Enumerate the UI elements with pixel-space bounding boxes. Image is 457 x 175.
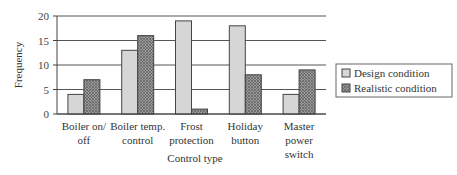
y-tick-label: 5: [44, 84, 50, 96]
legend: Design conditionRealistic condition: [336, 64, 452, 97]
bar-realistic-condition: [192, 109, 208, 114]
bar-realistic-condition: [138, 36, 154, 114]
legend-label: Realistic condition: [354, 82, 437, 94]
y-tick-label: 20: [38, 10, 50, 22]
x-category-label: Boiler on/: [62, 120, 107, 132]
bar-design-condition: [68, 94, 84, 114]
y-axis-ticks: 05101520: [38, 10, 57, 120]
legend-label: Design condition: [354, 67, 430, 79]
x-category-label: Frost: [180, 120, 203, 132]
y-tick-label: 15: [38, 35, 50, 47]
x-category-label: protection: [169, 134, 214, 146]
x-category-label: off: [78, 134, 91, 146]
x-category-label: Master: [284, 120, 315, 132]
x-category-label: Holiday: [228, 120, 264, 132]
bar-design-condition: [229, 26, 245, 114]
x-axis-label: Control type: [167, 152, 222, 164]
y-axis-label: Frequency: [12, 41, 24, 88]
legend-swatch: [342, 69, 350, 77]
bar-chart: 05101520 Boiler on/offBoiler temp.contro…: [0, 0, 457, 175]
bar-realistic-condition: [84, 80, 100, 114]
bar-design-condition: [122, 50, 138, 114]
x-category-label: Boiler temp.: [110, 120, 165, 132]
x-category-label: switch: [285, 148, 314, 160]
bar-realistic-condition: [245, 75, 261, 114]
bar-design-condition: [176, 21, 192, 114]
bars: [57, 21, 326, 114]
x-category-label: power: [285, 134, 313, 146]
y-tick-label: 10: [38, 59, 50, 71]
x-category-label: button: [231, 134, 260, 146]
bar-design-condition: [283, 94, 299, 114]
bar-realistic-condition: [299, 70, 315, 114]
x-category-label: control: [122, 134, 153, 146]
legend-swatch: [342, 84, 350, 92]
y-tick-label: 0: [44, 108, 50, 120]
